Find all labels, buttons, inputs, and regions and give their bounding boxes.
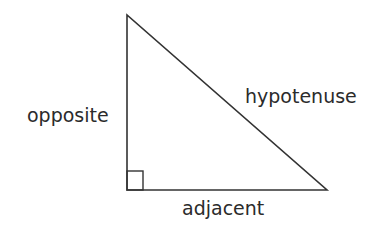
right-triangle-diagram: opposite hypotenuse adjacent	[0, 0, 391, 232]
opposite-label: opposite	[27, 106, 109, 125]
adjacent-label: adjacent	[182, 199, 264, 218]
right-angle-marker-icon	[127, 171, 143, 190]
hypotenuse-label: hypotenuse	[245, 87, 357, 106]
